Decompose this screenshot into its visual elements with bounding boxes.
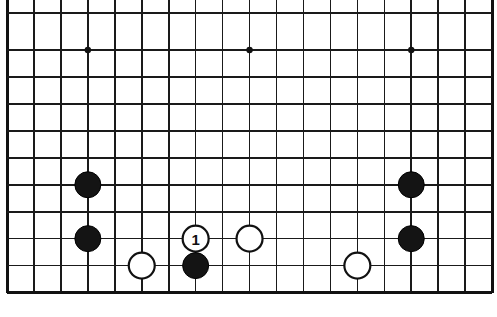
go-board-canvas: 1 <box>0 0 497 317</box>
hoshi-point-icon <box>408 47 414 53</box>
hoshi-point-icon <box>85 47 91 53</box>
black-stone-upper-left[interactable] <box>75 172 101 198</box>
black-stone-lower-left[interactable] <box>75 226 101 252</box>
hoshi-point-icon <box>246 47 252 53</box>
black-stone-icon[interactable] <box>398 226 424 252</box>
black-stone-icon[interactable] <box>75 226 101 252</box>
white-stone-right[interactable] <box>344 253 370 279</box>
black-stone-lower-right[interactable] <box>398 226 424 252</box>
move-number-label: 1 <box>191 231 199 248</box>
black-stone-icon[interactable] <box>183 253 209 279</box>
black-stone-icon[interactable] <box>398 172 424 198</box>
black-stone-center[interactable] <box>183 253 209 279</box>
white-stone-move-1[interactable]: 1 <box>183 226 209 252</box>
white-stone-left[interactable] <box>129 253 155 279</box>
black-stone-icon[interactable] <box>75 172 101 198</box>
white-stone-icon[interactable] <box>129 253 155 279</box>
white-stone-icon[interactable] <box>237 226 263 252</box>
go-board-diagram: 1 <box>0 0 497 317</box>
black-stone-upper-right[interactable] <box>398 172 424 198</box>
white-stone-center-right[interactable] <box>237 226 263 252</box>
white-stone-icon[interactable] <box>344 253 370 279</box>
